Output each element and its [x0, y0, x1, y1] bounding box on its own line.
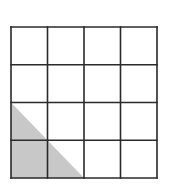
grid-diagram [0, 0, 170, 195]
diagram-canvas [0, 0, 170, 195]
